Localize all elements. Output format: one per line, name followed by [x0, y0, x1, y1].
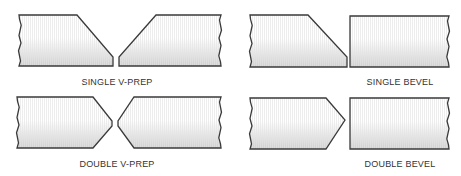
- weld-prep-diagram: SINGLE V-PREPSINGLE BEVELDOUBLE V-PREPDO…: [0, 0, 461, 176]
- right-plate-hatch: [350, 98, 450, 149]
- left-plate-hatch: [17, 97, 113, 148]
- panel-single-bevel: SINGLE BEVEL: [250, 15, 450, 87]
- panel-label-double-v-prep: DOUBLE V-PREP: [79, 159, 154, 169]
- panel-double-v-prep: DOUBLE V-PREP: [17, 97, 222, 169]
- panel-single-v-prep: SINGLE V-PREP: [19, 15, 222, 87]
- panel-label-double-bevel: DOUBLE BEVEL: [365, 159, 436, 169]
- panel-double-bevel: DOUBLE BEVEL: [250, 98, 450, 169]
- panel-label-single-bevel: SINGLE BEVEL: [367, 77, 434, 87]
- right-plate-hatch: [118, 97, 222, 148]
- panel-label-single-v-prep: SINGLE V-PREP: [81, 77, 152, 87]
- right-plate-hatch: [350, 16, 450, 67]
